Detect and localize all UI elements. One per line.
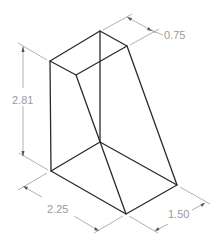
right-slanted-edge: [127, 46, 177, 185]
top-face: [50, 31, 127, 75]
arrow-icon: [155, 227, 160, 231]
arrow-icon: [147, 27, 152, 31]
extension-line: [129, 216, 158, 233]
arrow-icon: [23, 186, 28, 190]
extension-line: [180, 187, 210, 204]
tapered-block: [50, 31, 177, 214]
dimension-height: 2.81: [12, 43, 48, 170]
arrow-icon: [94, 227, 99, 231]
arrow-icon: [201, 203, 206, 207]
extension-line: [103, 14, 132, 30]
left-vertical-edge: [50, 61, 51, 171]
extension-line: [18, 173, 47, 190]
top-depth-label: 0.75: [164, 29, 185, 41]
height-label: 2.81: [12, 94, 33, 106]
base-width-label: 2.25: [47, 203, 68, 215]
dimension-top-depth: 0.75: [103, 14, 185, 45]
dimension-base-depth: 1.50: [129, 187, 210, 233]
base-depth-label: 1.50: [168, 208, 189, 220]
front-slanted-edge: [76, 75, 126, 214]
arrow-icon: [127, 17, 132, 21]
base-face: [51, 142, 177, 214]
isometric-drawing: 2.81 0.75 2.25 1.50: [0, 0, 222, 249]
